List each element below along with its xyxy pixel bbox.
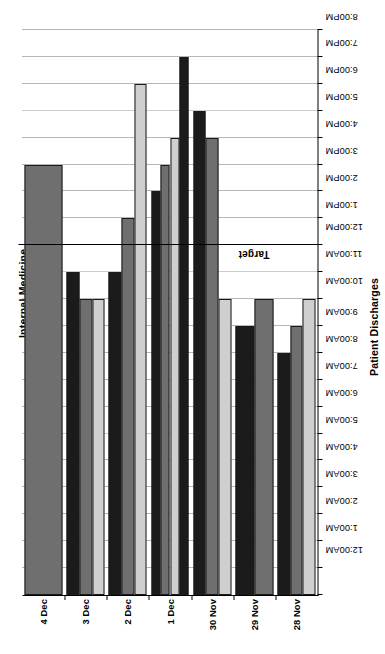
value-axis-tick	[317, 459, 322, 460]
bar[interactable]	[235, 326, 254, 595]
value-axis-tick-label: 8:00AM	[325, 334, 357, 344]
value-axis-tick	[317, 298, 322, 299]
value-axis-tick-label: 3:00AM	[325, 469, 357, 479]
value-axis-tick	[317, 164, 322, 165]
bar[interactable]	[170, 138, 179, 595]
bar[interactable]	[179, 57, 188, 595]
gridline	[22, 83, 317, 84]
category-axis-tick	[233, 595, 234, 600]
value-axis-tick	[317, 29, 322, 30]
category-axis-label: 30 Nov	[206, 599, 217, 639]
value-axis-tick	[317, 325, 322, 326]
value-axis-tick	[317, 244, 322, 245]
category-axis-tick	[275, 595, 276, 600]
value-axis-tick-label: 10:00AM	[325, 275, 362, 285]
bar[interactable]	[79, 299, 92, 595]
value-axis-tick-label: 12:00AM	[325, 544, 362, 554]
gridline	[22, 29, 317, 30]
value-axis-tick	[317, 486, 322, 487]
category-axis-label: 3 Dec	[79, 599, 90, 639]
value-axis-tick-label: 7:00PM	[325, 38, 357, 48]
gridline	[22, 56, 317, 57]
bar[interactable]	[290, 326, 303, 595]
category-axis-tick	[106, 595, 107, 600]
value-axis-tick-label: 4:00PM	[325, 119, 357, 129]
value-axis-tick-label: 11:00AM	[325, 249, 362, 259]
target-label: Target	[238, 249, 269, 260]
value-axis-tick	[317, 513, 322, 514]
value-axis-tick	[317, 567, 322, 568]
bar[interactable]	[24, 165, 62, 595]
value-axis-tick	[317, 56, 322, 57]
plot-area: 12:00AM1:00AM2:00AM3:00AM4:00AM5:00AM6:0…	[22, 30, 318, 596]
chart-rotation-wrapper: Internal Medicine Team #1 Week #6 12:00A…	[0, 0, 385, 654]
category-axis-label: 28 Nov	[290, 599, 301, 639]
bar[interactable]	[193, 111, 206, 595]
bar[interactable]	[277, 353, 290, 595]
value-axis-tick-label: 2:00AM	[325, 496, 357, 506]
value-axis-tick-label: 2:00PM	[325, 173, 357, 183]
bar[interactable]	[205, 138, 218, 595]
value-axis-tick-label: 1:00AM	[325, 522, 357, 532]
value-axis-tick	[317, 137, 322, 138]
value-axis-tick-label: 3:00PM	[325, 146, 357, 156]
category-axis-tick	[191, 595, 192, 600]
value-axis-tick	[317, 352, 322, 353]
value-axis-tick	[317, 271, 322, 272]
bar[interactable]	[92, 299, 105, 595]
value-axis-tick-label: 5:00PM	[325, 92, 357, 102]
bar[interactable]	[121, 218, 134, 595]
gridline	[22, 110, 317, 111]
value-axis-tick	[317, 594, 322, 595]
bar[interactable]	[254, 299, 273, 595]
category-axis-tick	[64, 595, 65, 600]
value-axis-tick	[317, 83, 322, 84]
value-axis-tick	[317, 406, 322, 407]
value-axis-tick	[317, 379, 322, 380]
category-axis-tick	[148, 595, 149, 600]
bar[interactable]	[151, 191, 160, 595]
bar[interactable]	[160, 165, 169, 595]
value-axis-tick-label: 5:00AM	[325, 415, 357, 425]
value-axis-tick	[317, 190, 322, 191]
category-axis-label: 4 Dec	[37, 599, 48, 639]
bar[interactable]	[218, 299, 231, 595]
value-axis-tick	[317, 433, 322, 434]
target-line	[18, 244, 317, 245]
category-axis-label: 1 Dec	[164, 599, 175, 639]
category-axis-label: 2 Dec	[121, 599, 132, 639]
value-axis-tick-label: 12:00PM	[325, 221, 362, 231]
bar[interactable]	[302, 299, 315, 595]
value-axis-tick	[317, 217, 322, 218]
category-axis-label: 29 Nov	[248, 599, 259, 639]
category-axis-title: Patient Discharges	[367, 0, 379, 654]
chart-canvas: Internal Medicine Team #1 Week #6 12:00A…	[0, 0, 385, 654]
value-axis-tick-label: 4:00AM	[325, 442, 357, 452]
bar[interactable]	[108, 272, 121, 595]
value-axis-tick	[317, 110, 322, 111]
value-axis-tick-label: 1:00PM	[325, 200, 357, 210]
value-axis-tick-label: 7:00AM	[325, 361, 357, 371]
value-axis-tick	[317, 540, 322, 541]
bar[interactable]	[66, 272, 79, 595]
value-axis-tick-label: 8:00PM	[325, 11, 357, 21]
value-axis-tick-label: 6:00AM	[325, 388, 357, 398]
value-axis-tick-label: 9:00AM	[325, 307, 357, 317]
bar[interactable]	[134, 84, 147, 595]
value-axis-tick-label: 6:00PM	[325, 65, 357, 75]
